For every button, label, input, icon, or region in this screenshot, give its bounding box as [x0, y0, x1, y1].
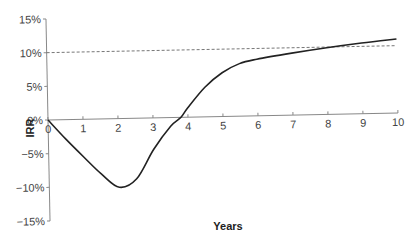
x-tick-label: 1 — [80, 122, 86, 134]
y-tick-label: 5% — [26, 80, 42, 92]
y-tick-label: −5% — [21, 148, 44, 160]
reference-dashed-line — [47, 46, 397, 53]
y-tick-label: −15% — [16, 215, 45, 228]
x-tick-label: 8 — [325, 117, 331, 129]
plot-area: 15%10%5%0%−5%−10%−15% 012345678910 — [12, 6, 406, 228]
x-tick-label: 7 — [290, 118, 296, 130]
x-tick-label: 9 — [360, 117, 366, 129]
x-tick-label: 3 — [150, 121, 156, 133]
x-tick-label: 5 — [220, 119, 226, 131]
x-tick-label: 6 — [255, 119, 261, 131]
x-tick-label: 0 — [45, 123, 51, 135]
irr-chart: 15%10%5%0%−5%−10%−15% 012345678910 IRR Y… — [0, 0, 417, 247]
y-axis-title: IRR — [24, 118, 36, 137]
y-tick-label: 15% — [19, 13, 41, 25]
x-tick-label: 2 — [115, 122, 121, 134]
x-tick-label: 4 — [185, 120, 191, 132]
x-tick-label: 10 — [392, 116, 404, 128]
x-axis-title: Years — [213, 220, 242, 232]
y-tick-label: −10% — [16, 181, 45, 194]
y-tick-label: 10% — [20, 47, 42, 59]
